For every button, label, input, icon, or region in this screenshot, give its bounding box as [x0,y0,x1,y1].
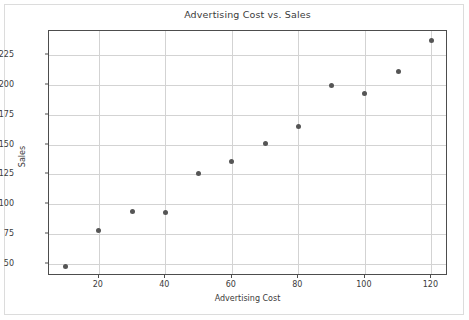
x-tick-label: 80 [277,280,317,289]
scatter-point [329,83,334,88]
y-tick-label: 175 [0,109,14,118]
x-axis-label: Advertising Cost [48,294,447,303]
y-tick-mark [45,83,48,84]
x-tick-mark [164,275,165,278]
gridline-horizontal [49,55,446,56]
scatter-point [63,264,68,269]
chart-figure: Advertising Cost vs. Sales Sales Adverti… [0,0,469,320]
gridline-horizontal [49,204,446,205]
x-tick-label: 60 [211,280,251,289]
x-tick-label: 40 [144,280,184,289]
y-tick-label: 125 [0,169,14,178]
x-tick-mark [98,275,99,278]
scatter-point [229,159,234,164]
x-tick-label: 120 [410,280,450,289]
gridline-horizontal [49,85,446,86]
gridline-vertical [165,31,166,274]
gridline-horizontal [49,234,446,235]
x-tick-mark [430,275,431,278]
scatter-point [296,124,301,129]
scatter-point [130,209,135,214]
x-tick-mark [364,275,365,278]
y-tick-label: 50 [0,259,14,268]
y-tick-label: 100 [0,199,14,208]
y-axis-label: Sales [18,127,27,187]
gridline-horizontal [49,174,446,175]
y-tick-label: 150 [0,139,14,148]
y-tick-mark [45,233,48,234]
gridline-horizontal [49,145,446,146]
y-tick-mark [45,173,48,174]
x-tick-label: 20 [78,280,118,289]
scatter-point [362,91,367,96]
y-tick-label: 200 [0,79,14,88]
scatter-point [96,228,101,233]
y-tick-label: 75 [0,229,14,238]
x-tick-label: 100 [344,280,384,289]
y-tick-mark [45,263,48,264]
y-tick-label: 225 [0,49,14,58]
y-tick-mark [45,53,48,54]
gridline-vertical [365,31,366,274]
gridline-vertical [232,31,233,274]
plot-area [48,30,447,275]
y-tick-mark [45,143,48,144]
x-tick-mark [297,275,298,278]
gridline-vertical [298,31,299,274]
x-tick-mark [231,275,232,278]
scatter-point [396,69,401,74]
gridline-vertical [431,31,432,274]
gridline-horizontal [49,115,446,116]
gridline-horizontal [49,264,446,265]
scatter-point [263,141,268,146]
y-tick-mark [45,113,48,114]
y-tick-mark [45,203,48,204]
gridline-vertical [99,31,100,274]
scatter-point [196,171,201,176]
chart-title: Advertising Cost vs. Sales [48,9,447,20]
scatter-point [163,210,168,215]
scatter-point [429,38,434,43]
